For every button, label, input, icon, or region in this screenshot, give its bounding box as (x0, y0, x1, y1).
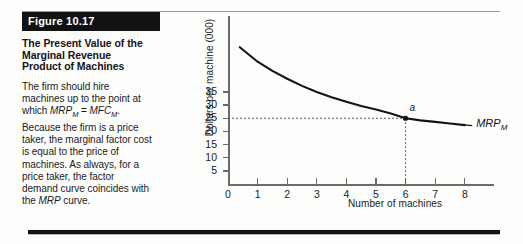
bottom-rule (28, 230, 500, 234)
figure-title-line-3: Product of Machines (22, 60, 124, 72)
mrp-curve-label-subscript: M (501, 123, 508, 132)
figure-title-line-2: Marginal Revenue (22, 49, 111, 61)
mrp-curve-label: MRPM (476, 117, 507, 132)
chart: Dollars per machine (000) Number of mach… (190, 12, 510, 222)
figure-container: Figure 10.17 The Present Value of the Ma… (0, 0, 523, 244)
mrp-curve-svg (190, 12, 510, 222)
figure-title-line-1: The Present Value of the (22, 37, 143, 49)
body-segment-7: MRP (38, 195, 60, 206)
body-segment-8: curve. (61, 195, 91, 206)
body-segment-3: = (78, 105, 89, 116)
mrp-curve-label-text: MRP (476, 117, 500, 129)
body-segment-6: . Because the firm is a price taker, the… (22, 105, 152, 206)
figure-body-text: The firm should hire machines up to the … (22, 81, 152, 208)
figure-number-bar: Figure 10.17 (22, 12, 160, 31)
point-a-marker (403, 116, 408, 121)
caption-column: Figure 10.17 The Present Value of the Ma… (22, 12, 162, 208)
point-a-label: a (410, 102, 416, 113)
body-segment-4: MFC (90, 105, 112, 116)
body-segment-1: MRP (50, 105, 72, 116)
figure-title: The Present Value of the Marginal Revenu… (22, 38, 157, 73)
